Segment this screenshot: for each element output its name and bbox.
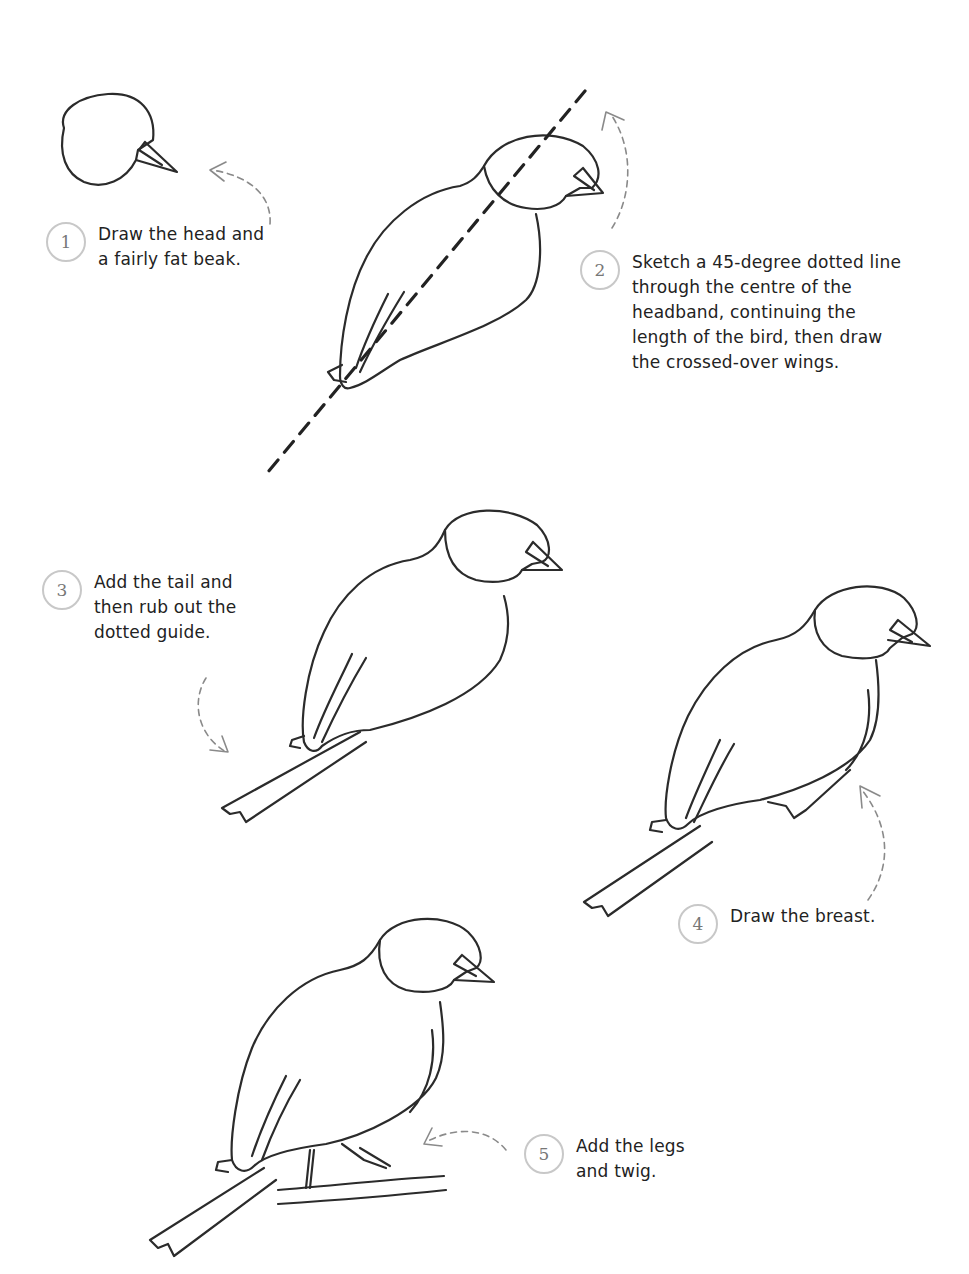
step-caption: Sketch a 45-degree dotted line through t…: [632, 250, 901, 375]
step-caption: Draw the breast.: [730, 904, 876, 929]
step-5: 5 Add the legs and twig.: [524, 1134, 685, 1184]
step-number-badge: 5: [524, 1134, 564, 1174]
step-caption: Add the legs and twig.: [576, 1134, 685, 1184]
step-number-badge: 1: [46, 222, 86, 262]
arrow-to-step-2: [602, 112, 628, 228]
arrow-to-step-5: [424, 1128, 506, 1150]
arrow-to-step-4: [860, 786, 885, 900]
dotted-guide-line: [263, 91, 585, 478]
step-3: 3 Add the tail and then rub out the dott…: [42, 570, 236, 645]
illustration-step-2-body: [263, 91, 603, 478]
step-caption: Draw the head and a fairly fat beak.: [98, 222, 264, 272]
illustration-step-1-head: [62, 94, 177, 185]
step-2: 2 Sketch a 45-degree dotted line through…: [580, 250, 901, 375]
twig: [278, 1176, 446, 1204]
step-caption: Add the tail and then rub out the dotted…: [94, 570, 236, 645]
illustration-step-5-bird: [150, 919, 494, 1256]
step-number-badge: 2: [580, 250, 620, 290]
step-number-badge: 4: [678, 904, 718, 944]
arrow-to-step-3: [198, 678, 228, 752]
illustration-step-3-bird: [222, 511, 562, 822]
step-4: 4 Draw the breast.: [678, 904, 876, 944]
step-number-badge: 3: [42, 570, 82, 610]
arrow-to-step-1: [210, 162, 270, 224]
step-1: 1 Draw the head and a fairly fat beak.: [46, 222, 264, 272]
illustration-step-4-bird: [584, 586, 930, 916]
